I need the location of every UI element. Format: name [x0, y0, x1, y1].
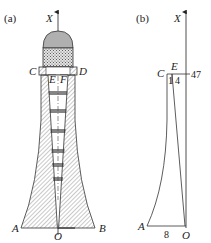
dim-47: 47	[191, 69, 201, 80]
dim-1: 1	[168, 75, 173, 86]
label-f-a: F	[59, 73, 67, 85]
panel-a: (a) X	[4, 12, 106, 242]
label-c-b: C	[157, 67, 165, 79]
crosshatch-block	[43, 48, 73, 67]
dim-8: 8	[164, 229, 169, 240]
panel-a-label: (a)	[4, 12, 17, 25]
label-a-a: A	[11, 222, 19, 234]
label-o-a: O	[54, 230, 62, 242]
label-d-a: D	[78, 65, 87, 77]
label-e-b: E	[170, 60, 178, 72]
label-e-a: E	[48, 73, 56, 85]
label-o-b: O	[182, 229, 190, 241]
dim-4: 4	[175, 75, 180, 86]
dome	[43, 31, 73, 48]
diagram-canvas: (a) X	[0, 0, 211, 243]
axis-label-x-b: X	[173, 12, 182, 24]
inner-profile	[172, 74, 185, 226]
label-a-b: A	[137, 220, 145, 232]
outer-profile	[147, 74, 167, 226]
panel-b-label: (b)	[136, 12, 149, 25]
label-c-a: C	[29, 65, 37, 77]
label-b-a: B	[99, 222, 106, 234]
axis-label-x-a: X	[45, 12, 54, 24]
panel-b: (b) X C E 1 4 47 8 A O	[136, 12, 201, 241]
